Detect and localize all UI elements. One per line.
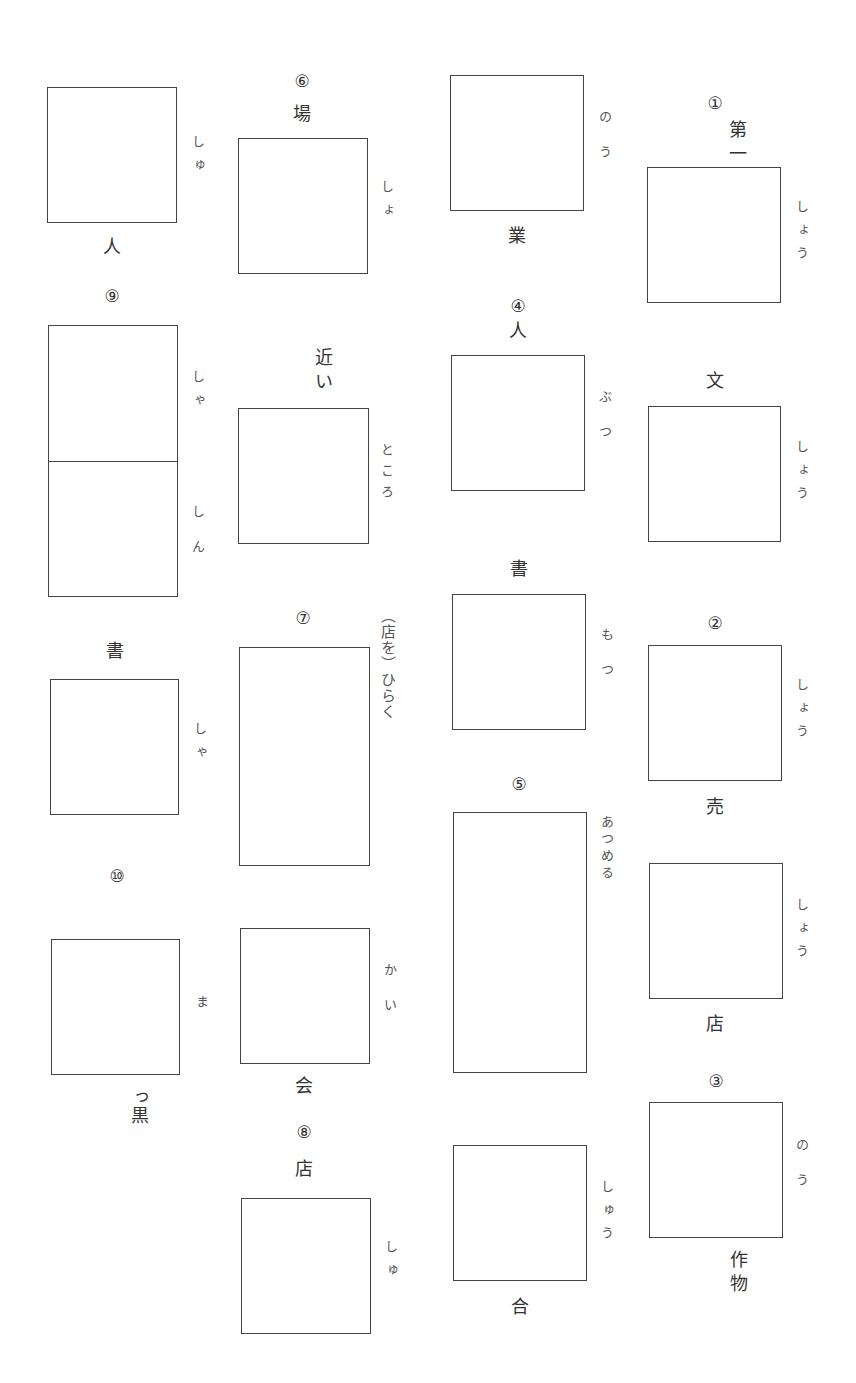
reading-hint-q6: しょ [380,180,393,226]
prompt-kanji-chikai: 近い [291,348,331,396]
prompt-kanji-gyo: 業 [497,227,537,245]
question-number-5: ⑤ [499,776,539,793]
prompt-kanji-makkuro: っ黒 [107,1088,147,1124]
reading-hint-q9-bottom: しん [191,505,204,575]
question-number-7: ⑦ [283,610,323,627]
prompt-kanji-bai: 売 [695,798,735,816]
question-number-2: ② [695,615,735,632]
question-number-1: ① [695,95,735,112]
prompt-kanji-mise: 店 [284,1160,324,1178]
reading-hint-q2: しょう [795,678,808,747]
reading-hint-q4b: もつ [600,628,613,698]
answer-box-q6b[interactable] [238,408,369,544]
reading-hint-q6b: ところ [380,443,393,506]
question-number-4: ④ [498,298,538,315]
answer-box-q5[interactable] [453,812,587,1073]
reading-hint-q8a: しゅ [191,135,204,181]
prompt-kanji-sho-2: 書 [95,642,135,660]
prompt-kanji-go: 合 [500,1298,540,1316]
prompt-kanji-ten: 店 [695,1015,735,1033]
reading-hint-q9b: しゃ [193,722,206,768]
reading-hint-q1b: しょう [795,440,808,509]
answer-box-q4[interactable] [451,355,585,491]
prompt-kanji-dai-ichi: 第一 [705,120,745,168]
reading-hint-q3: のう [795,1138,808,1208]
reading-hint-q3a: のう [598,110,611,180]
reading-hint-q9-top: しゃ [191,370,204,416]
question-number-3: ③ [696,1073,736,1090]
answer-box-q3a[interactable] [450,75,584,211]
answer-box-q2[interactable] [648,645,782,781]
answer-box-q1b[interactable] [648,406,781,542]
answer-box-q10[interactable] [51,939,180,1075]
reading-hint-q5: あつめる [600,815,613,883]
reading-hint-q5b: しゅう [600,1180,613,1249]
reading-hint-q7b: かい [383,963,396,1033]
answer-box-q6[interactable] [238,138,368,274]
question-number-8: ⑧ [284,1124,324,1141]
answer-box-q9[interactable] [48,325,178,597]
answer-box-q4b[interactable] [452,594,586,730]
answer-box-q5b[interactable] [453,1145,587,1281]
prompt-kanji-sakumotsu: 作物 [706,1250,746,1298]
answer-box-q2b[interactable] [649,863,783,999]
reading-hint-q8: しゅ [384,1240,397,1286]
answer-box-q8[interactable] [241,1198,371,1334]
answer-box-q9b[interactable] [50,679,179,815]
question-number-6: ⑥ [282,73,322,90]
reading-hint-q7: （店を）ひらく [379,608,394,720]
answer-box-q7[interactable] [239,647,370,866]
prompt-kanji-jin: 人 [498,322,538,340]
answer-box-q1[interactable] [647,167,781,303]
prompt-kanji-kai: 会 [284,1077,324,1095]
question-number-10: ⑩ [97,868,137,885]
prompt-kanji-nin: 人 [92,238,132,256]
prompt-kanji-sho: 書 [499,560,539,578]
answer-box-q8a[interactable] [47,87,177,223]
reading-hint-q1: しょう [795,200,808,269]
question-number-9: ⑨ [92,288,132,305]
prompt-kanji-ba: 場 [282,105,322,123]
reading-hint-q4: ぶつ [598,390,611,460]
answer-box-q7b[interactable] [240,928,370,1064]
reading-hint-q10: ま [195,995,208,1018]
reading-hint-q2b: しょう [795,898,808,967]
prompt-kanji-bun: 文 [695,372,735,390]
answer-box-q3[interactable] [649,1102,783,1238]
